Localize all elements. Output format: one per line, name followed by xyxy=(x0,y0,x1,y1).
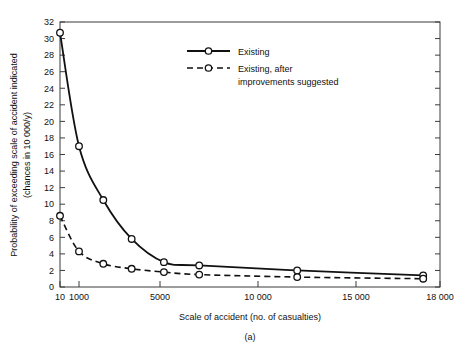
y-tick-label: 16 xyxy=(44,150,54,160)
legend-marker-existing xyxy=(205,48,211,54)
data-point-marker xyxy=(294,274,301,281)
y-axis: 02468101214161820222426283032 xyxy=(44,17,440,292)
chart-svg: 02468101214161820222426283032 1010005000… xyxy=(0,0,471,347)
y-tick-label: 30 xyxy=(44,34,54,44)
data-point-marker xyxy=(294,267,301,274)
y-tick-label: 6 xyxy=(49,233,54,243)
figure-container: 02468101214161820222426283032 1010005000… xyxy=(0,0,471,347)
y-tick-label: 26 xyxy=(44,67,54,77)
data-point-marker xyxy=(161,269,168,276)
y-tick-label: 24 xyxy=(44,84,54,94)
data-point-marker xyxy=(196,271,203,278)
x-tick-label: 18 000 xyxy=(426,292,454,302)
data-point-marker xyxy=(76,143,83,150)
data-point-marker xyxy=(420,275,427,282)
x-tick-label: 15 000 xyxy=(342,292,370,302)
data-point-marker xyxy=(128,236,135,243)
y-tick-label: 8 xyxy=(49,216,54,226)
y-tick-label: 18 xyxy=(44,133,54,143)
legend-label-improved-line2: improvements suggested xyxy=(238,77,339,87)
y-tick-label: 10 xyxy=(44,199,54,209)
x-tick-label: 10 000 xyxy=(244,292,272,302)
data-point-marker xyxy=(196,262,203,269)
data-point-marker xyxy=(128,265,135,272)
y-axis-label-line1: Probability of exceeding scale of accide… xyxy=(9,53,19,257)
x-tick-label: 1000 xyxy=(69,292,89,302)
data-point-marker xyxy=(161,259,168,266)
data-point-marker xyxy=(57,29,64,36)
y-tick-label: 20 xyxy=(44,117,54,127)
x-tick-label: 5000 xyxy=(150,292,170,302)
y-tick-label: 32 xyxy=(44,17,54,27)
data-point-marker xyxy=(57,212,64,219)
data-point-marker xyxy=(76,248,83,255)
legend-label-existing: Existing xyxy=(238,47,270,57)
y-axis-label-line2: (chances in 10 000/y) xyxy=(22,112,32,198)
legend: Existing Existing, after improvements su… xyxy=(187,47,339,87)
y-tick-label: 4 xyxy=(49,249,54,259)
legend-label-improved-line1: Existing, after xyxy=(238,64,293,74)
legend-marker-improved xyxy=(205,65,211,71)
y-tick-label: 2 xyxy=(49,266,54,276)
series-line-improved xyxy=(60,216,423,279)
x-axis: 101000500010 00015 00018 000 xyxy=(55,281,454,302)
y-tick-label: 14 xyxy=(44,166,54,176)
x-axis-label: Scale of accident (no. of casualties) xyxy=(179,312,321,322)
y-tick-label: 22 xyxy=(44,100,54,110)
y-tick-label: 0 xyxy=(49,282,54,292)
x-tick-label: 10 xyxy=(55,292,65,302)
y-tick-label: 28 xyxy=(44,50,54,60)
figure-caption: (a) xyxy=(245,332,256,342)
y-tick-label: 12 xyxy=(44,183,54,193)
data-point-marker xyxy=(100,197,107,204)
plot-frame xyxy=(60,22,440,287)
data-point-marker xyxy=(100,261,107,268)
